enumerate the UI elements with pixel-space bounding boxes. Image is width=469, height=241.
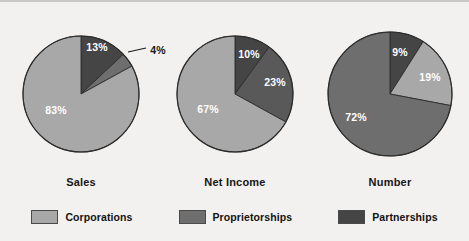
pie-net-income: [177, 36, 293, 152]
pie-number: [328, 32, 452, 156]
pie-sales: [23, 36, 139, 152]
chart-frame: 13%4%83%10%23%67%9%19%72%SalesNet Income…: [0, 0, 469, 241]
legend-swatch-corporations: [31, 210, 58, 224]
category-label-net-income: Net Income: [204, 176, 265, 188]
slice-label-corporations: 83%: [45, 104, 67, 116]
legend-label-partnerships: Partnerships: [372, 211, 437, 223]
legend-swatch-partnerships: [338, 210, 365, 224]
slice-label-proprietorships: 23%: [264, 76, 286, 88]
legend-entry-proprietorships[interactable]: Proprietorships: [179, 210, 293, 224]
slice-label-proprietorships: 4%: [150, 44, 166, 56]
slice-label-partnerships: 10%: [238, 48, 260, 60]
leader-line-icon: [128, 48, 146, 52]
legend-swatch-proprietorships: [179, 210, 206, 224]
legend-entry-partnerships[interactable]: Partnerships: [338, 210, 437, 224]
category-label-number: Number: [369, 176, 412, 188]
slice-label-partnerships: 9%: [392, 46, 408, 58]
slice-label-proprietorships: 72%: [345, 111, 367, 123]
legend-label-corporations: Corporations: [65, 211, 132, 223]
slice-label-corporations: 19%: [419, 71, 441, 83]
slice-label-partnerships: 13%: [86, 41, 108, 53]
slice-label-corporations: 67%: [197, 103, 219, 115]
legend-label-proprietorships: Proprietorships: [213, 211, 293, 223]
category-label-sales: Sales: [66, 176, 96, 188]
chart-legend: CorporationsProprietorshipsPartnerships: [0, 202, 469, 232]
legend-entry-corporations[interactable]: Corporations: [31, 210, 132, 224]
